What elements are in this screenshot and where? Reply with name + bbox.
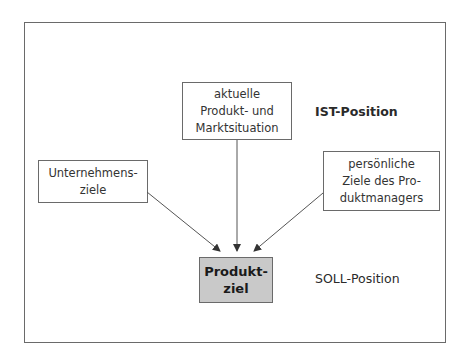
ist-position-label: IST-Position (315, 104, 398, 119)
market-situation-text: aktuelle Produkt- und Marktsituation (196, 86, 279, 137)
market-situation-box: aktuelle Produkt- und Marktsituation (182, 82, 292, 140)
product-goal-text: Produkt- ziel (204, 263, 268, 297)
manager-goals-text: persönliche Ziele des Pro- duktmanagers (340, 156, 423, 207)
soll-position-label: SOLL-Position (315, 271, 400, 286)
manager-goals-box: persönliche Ziele des Pro- duktmanagers (323, 151, 440, 211)
company-goals-box: Unternehmens- ziele (38, 160, 148, 203)
product-goal-box: Produkt- ziel (199, 257, 273, 303)
company-goals-text: Unternehmens- ziele (48, 165, 137, 199)
